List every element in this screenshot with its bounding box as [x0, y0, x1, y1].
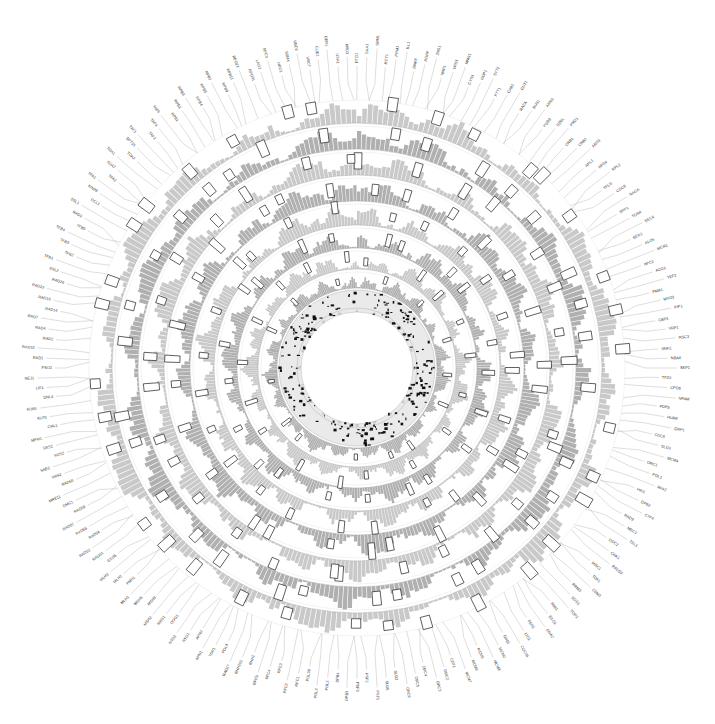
scatter-point: [353, 301, 356, 304]
marker-rect: [578, 331, 592, 341]
scatter-point: [422, 387, 426, 390]
marker-rect: [344, 251, 349, 262]
scatter-point: [403, 321, 405, 323]
scatter-point: [327, 306, 329, 307]
circos-plot: 05101520253035404550556065707580859095 R…: [0, 0, 715, 724]
scatter-point: [409, 311, 413, 313]
scatter-point: [309, 306, 312, 307]
scatter-point: [388, 309, 389, 312]
scatter-point: [296, 337, 299, 338]
gene-label: RAD10: [22, 344, 36, 350]
scatter-point: [384, 427, 387, 430]
scatter-point: [401, 423, 404, 426]
scatter-point: [429, 386, 431, 388]
scatter-point: [314, 329, 315, 331]
scatter-point: [306, 328, 309, 330]
scatter-point: [386, 303, 389, 304]
gene-label: POL2: [324, 680, 330, 690]
scatter-point: [423, 394, 426, 397]
marker-rect: [347, 154, 355, 163]
scatter-point: [378, 300, 379, 302]
scatter-point: [413, 335, 414, 338]
marker-rect: [354, 153, 362, 169]
gene-label: PSF1: [375, 690, 381, 700]
scatter-point: [368, 422, 370, 424]
scatter-point: [376, 428, 377, 430]
scatter-point: [314, 405, 315, 406]
figure-canvas: 05101520253035404550556065707580859095 R…: [0, 0, 715, 724]
marker-rect: [371, 521, 378, 534]
scatter-point: [433, 367, 435, 369]
scatter-point: [421, 384, 423, 387]
scatter-point: [285, 390, 287, 393]
scatter-point: [374, 294, 376, 295]
scatter-point: [359, 433, 361, 434]
scatter-point: [304, 336, 306, 337]
scatter-point: [422, 371, 423, 373]
scatter-point: [316, 421, 319, 422]
scatter-point: [297, 355, 300, 356]
scatter-point: [420, 377, 422, 379]
scatter-point: [405, 418, 406, 421]
scatter-point: [375, 426, 376, 428]
scatter-point: [365, 422, 368, 425]
scatter-point: [385, 316, 387, 318]
scatter-point: [372, 437, 374, 440]
marker-rect: [368, 543, 376, 560]
scatter-point: [397, 327, 400, 330]
scatter-point: [395, 412, 397, 414]
gene-label: DER1: [323, 36, 329, 47]
gene-label: RTG1: [354, 53, 359, 63]
scatter-point: [302, 331, 303, 332]
scatter-point: [409, 398, 411, 401]
marker-rect: [237, 360, 247, 365]
scatter-point: [290, 326, 292, 328]
scatter-point: [288, 354, 291, 356]
plot-background: [0, 0, 715, 724]
scatter-point: [311, 322, 313, 323]
scatter-point: [420, 379, 423, 382]
scatter-point: [329, 313, 331, 316]
scatter-point: [346, 435, 349, 437]
scatter-point: [413, 318, 415, 320]
scatter-point: [377, 304, 378, 306]
scatter-point: [292, 388, 293, 390]
scatter-point: [407, 321, 408, 323]
marker-rect: [537, 361, 551, 368]
marker-rect: [90, 379, 101, 389]
scatter-point: [334, 429, 337, 432]
scatter-point: [384, 423, 387, 426]
scatter-point: [408, 394, 411, 395]
scatter-point: [402, 312, 404, 313]
scatter-point: [427, 392, 429, 394]
scatter-point: [366, 294, 368, 296]
scatter-point: [293, 328, 295, 331]
scatter-point: [322, 302, 324, 304]
scatter-point: [406, 319, 408, 320]
scatter-point: [300, 328, 301, 330]
scatter-point: [285, 342, 287, 345]
gene-label: DPB4: [334, 671, 340, 682]
marker-rect: [364, 258, 369, 266]
marker-rect: [465, 353, 476, 358]
scatter-point: [350, 425, 351, 428]
marker-rect: [443, 373, 452, 377]
scatter-point: [412, 403, 415, 405]
scatter-point: [393, 301, 395, 304]
scatter-point: [380, 294, 383, 296]
scatter-point: [284, 387, 287, 389]
scatter-point: [313, 317, 316, 320]
scatter-point: [303, 403, 306, 406]
scatter-point: [301, 338, 304, 341]
scatter-point: [294, 409, 295, 411]
marker-rect: [505, 368, 519, 374]
scatter-point: [391, 435, 394, 437]
scatter-point: [413, 323, 416, 325]
gene-label: SRN1: [375, 35, 381, 46]
gene-label: RAD1: [33, 355, 44, 360]
gene-label: HRD3: [345, 44, 350, 55]
scatter-point: [430, 360, 433, 362]
scatter-point: [308, 397, 309, 398]
scatter-point: [370, 429, 373, 431]
scatter-point: [427, 360, 430, 362]
